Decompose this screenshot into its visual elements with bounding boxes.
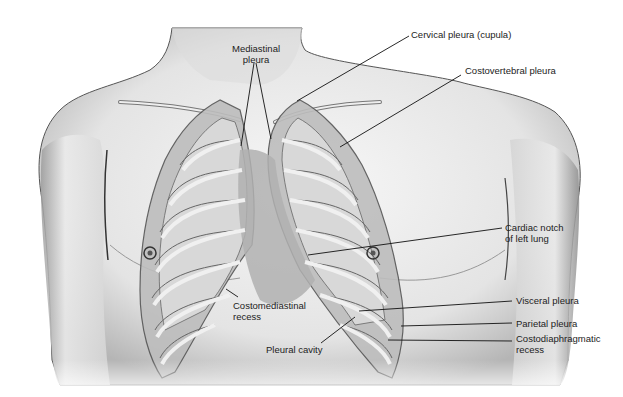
label-costodiaphragmatic-recess: Costodiaphragmatic recess [516, 333, 601, 355]
label-pleural-cavity: Pleural cavity [266, 344, 323, 355]
label-cardiac-notch: Cardiac notch of left lung [505, 222, 564, 244]
label-line: recess [516, 344, 601, 355]
label-visceral-pleura: Visceral pleura [516, 295, 579, 306]
label-cervical-pleura: Cervical pleura (cupula) [411, 29, 511, 40]
label-costovertebral-pleura: Costovertebral pleura [465, 65, 556, 76]
label-line: Mediastinal [232, 43, 280, 54]
label-line: recess [233, 311, 306, 322]
label-line: of left lung [505, 233, 564, 244]
label-line: Costomediastinal [233, 300, 306, 311]
label-parietal-pleura: Parietal pleura [516, 318, 577, 329]
label-line: Cardiac notch [505, 222, 564, 233]
label-mediastinal-pleura: Mediastinal pleura [232, 43, 280, 65]
label-line: Costodiaphragmatic [516, 333, 601, 344]
label-line: pleura [232, 54, 280, 65]
label-costomediastinal-recess: Costomediastinal recess [233, 300, 306, 322]
